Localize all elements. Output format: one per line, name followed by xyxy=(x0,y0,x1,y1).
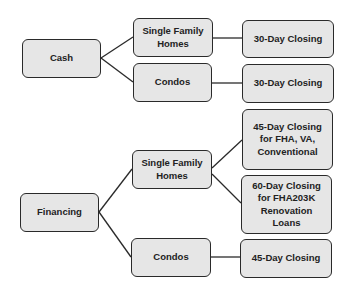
node-label: Condos xyxy=(155,76,190,89)
node-label: Single Family Homes xyxy=(142,25,203,50)
node-financing-single-family-homes: Single Family Homes xyxy=(132,150,212,189)
node-label: 30-Day Closing xyxy=(254,33,323,46)
node-label: 30-Day Closing xyxy=(254,77,323,90)
node-label: 60-Day Closing for FHA203K Renovation Lo… xyxy=(252,180,321,230)
node-financing-sfh-60-day-closing: 60-Day Closing for FHA203K Renovation Lo… xyxy=(241,175,332,234)
node-label: Cash xyxy=(50,52,73,65)
node-cash: Cash xyxy=(22,39,101,78)
node-cash-condos: Condos xyxy=(133,63,212,102)
node-label: Single Family Homes xyxy=(141,157,202,182)
node-label: Financing xyxy=(37,206,82,219)
node-label: 45-Day Closing xyxy=(252,252,321,265)
node-label: Condos xyxy=(153,251,188,264)
node-cash-sfh-closing: 30-Day Closing xyxy=(242,20,334,58)
node-financing-condos-closing: 45-Day Closing xyxy=(240,239,332,278)
node-financing-condos: Condos xyxy=(131,238,211,277)
node-cash-single-family-homes: Single Family Homes xyxy=(133,18,213,57)
node-cash-condos-closing: 30-Day Closing xyxy=(242,64,334,103)
node-financing-sfh-45-day-closing: 45-Day Closing for FHA, VA, Conventional xyxy=(242,109,333,170)
node-financing: Financing xyxy=(20,193,99,232)
node-label: 45-Day Closing for FHA, VA, Conventional xyxy=(253,121,322,159)
